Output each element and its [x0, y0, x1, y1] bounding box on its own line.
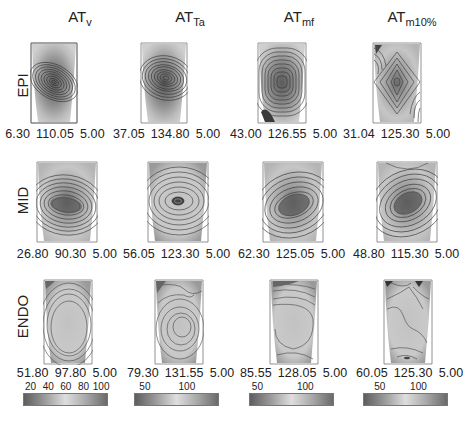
- contour-panel-mid-atm10: [376, 161, 438, 243]
- panel-stats-endo-atm10: 60.05125.305.00: [353, 366, 463, 380]
- panel-stats-epi-atta: 37.05134.805.00: [110, 127, 220, 141]
- stat-max: 125.30: [381, 127, 420, 141]
- stat-min: 60.05: [356, 366, 388, 380]
- column-title-base: AT: [387, 8, 405, 25]
- stat-step: 5.00: [435, 247, 460, 261]
- panel-stats-epi-atmf: 43.00126.555.00: [227, 127, 337, 141]
- colorbar-tick: 50: [139, 381, 150, 392]
- panel-stats-epi-atv: 6.30110.055.00: [0, 127, 110, 141]
- contour-panel-endo-atv: [43, 279, 93, 365]
- stat-min: 85.55: [240, 366, 272, 380]
- colorbar-atmf: [249, 393, 334, 406]
- stat-max: 97.80: [55, 366, 87, 380]
- contour-panel-endo-atmf: [269, 279, 319, 365]
- colorbar-atta: [134, 393, 219, 406]
- panel-stats-mid-atv: 26.8090.305.00: [12, 247, 122, 261]
- stat-min: 37.05: [113, 127, 145, 141]
- colorbar-tick: 20: [25, 381, 36, 392]
- stat-step: 5.00: [321, 247, 346, 261]
- colorbar-tick: 60: [60, 381, 71, 392]
- stat-max: 128.05: [278, 366, 317, 380]
- stat-max: 90.30: [55, 247, 87, 261]
- colorbar-atv: [23, 393, 108, 406]
- row-label-endo: ENDO: [14, 292, 31, 342]
- column-title-base: AT: [68, 8, 86, 25]
- colorbar-tick: 100: [297, 381, 314, 392]
- column-title-atta: ATTa: [140, 8, 240, 28]
- colorbar-ticks-atta: 50 100: [134, 381, 218, 393]
- panel-stats-endo-atta: 79.30131.555.00: [124, 366, 234, 380]
- column-title-atm10: ATm10%: [362, 8, 462, 28]
- stat-min: 62.30: [238, 247, 270, 261]
- panel-stats-endo-atmf: 85.55128.055.00: [237, 366, 347, 380]
- colorbar-atm10: [363, 393, 448, 406]
- column-title-atmf: ATmf: [249, 8, 349, 28]
- row-label-mid: MID: [14, 176, 31, 226]
- stat-max: 134.80: [151, 127, 190, 141]
- contour-panel-epi-atv: [30, 42, 78, 124]
- stat-step: 5.00: [92, 366, 117, 380]
- stat-min: 79.30: [127, 366, 159, 380]
- stat-step: 5.00: [80, 127, 105, 141]
- stat-max: 125.30: [394, 366, 433, 380]
- colorbar-tick: 100: [179, 381, 196, 392]
- stat-min: 56.05: [123, 247, 155, 261]
- contour-panel-endo-atta: [154, 279, 204, 365]
- stat-min: 51.80: [17, 366, 49, 380]
- stat-max: 131.55: [165, 366, 204, 380]
- stat-step: 5.00: [426, 127, 451, 141]
- panel-stats-mid-atmf: 62.30125.055.00: [235, 247, 345, 261]
- colorbar-ticks-atmf: 50 100: [249, 381, 333, 393]
- colorbar-tick: 100: [93, 381, 110, 392]
- stat-step: 5.00: [439, 366, 464, 380]
- panel-stats-mid-atm10: 48.80115.305.00: [350, 247, 460, 261]
- stat-max: 125.05: [276, 247, 315, 261]
- stat-max: 123.30: [161, 247, 200, 261]
- contour-panel-epi-atm10: [372, 42, 422, 124]
- panel-stats-mid-atta: 56.05123.305.00: [120, 247, 230, 261]
- stat-step: 5.00: [313, 127, 338, 141]
- column-title-sub: mf: [302, 16, 314, 28]
- contour-panel-mid-atmf: [262, 161, 324, 243]
- stat-min: 48.80: [353, 247, 385, 261]
- contour-panel-mid-atv: [36, 161, 98, 243]
- colorbar-tick: 100: [410, 381, 427, 392]
- contour-panel-epi-atta: [140, 42, 188, 124]
- panel-stats-endo-atv: 51.8097.805.00: [12, 366, 122, 380]
- stat-min: 26.80: [17, 247, 49, 261]
- panel-stats-epi-atm10: 31.04125.305.00: [340, 127, 450, 141]
- colorbar-tick: 40: [43, 381, 54, 392]
- colorbar-tick: 50: [374, 381, 385, 392]
- colorbar-tick: 80: [78, 381, 89, 392]
- contour-panel-mid-atta: [147, 161, 209, 243]
- column-title-base: AT: [284, 8, 302, 25]
- stat-min: 6.30: [5, 127, 30, 141]
- row-label-epi: EPI: [14, 61, 31, 111]
- stat-step: 5.00: [92, 247, 117, 261]
- colorbar-ticks-atv: 20 40 60 80 100: [23, 381, 107, 393]
- stat-step: 5.00: [323, 366, 348, 380]
- column-title-base: AT: [175, 8, 193, 25]
- colorbar-ticks-atm10: 50 100: [363, 381, 447, 393]
- colorbar-tick: 50: [252, 381, 263, 392]
- stat-min: 31.04: [343, 127, 375, 141]
- column-title-sub: Ta: [193, 16, 205, 28]
- stat-max: 115.30: [391, 247, 429, 261]
- stat-min: 43.00: [230, 127, 262, 141]
- contour-panel-endo-atm10: [383, 279, 433, 365]
- stat-max: 126.55: [268, 127, 307, 141]
- contour-panel-epi-atmf: [257, 42, 307, 124]
- column-title-sub: v: [86, 16, 92, 28]
- stat-step: 5.00: [206, 247, 231, 261]
- stat-max: 110.05: [36, 127, 74, 141]
- column-title-atv: ATv: [30, 8, 130, 28]
- stat-step: 5.00: [196, 127, 221, 141]
- column-title-sub: m10%: [405, 16, 436, 28]
- stat-step: 5.00: [210, 366, 235, 380]
